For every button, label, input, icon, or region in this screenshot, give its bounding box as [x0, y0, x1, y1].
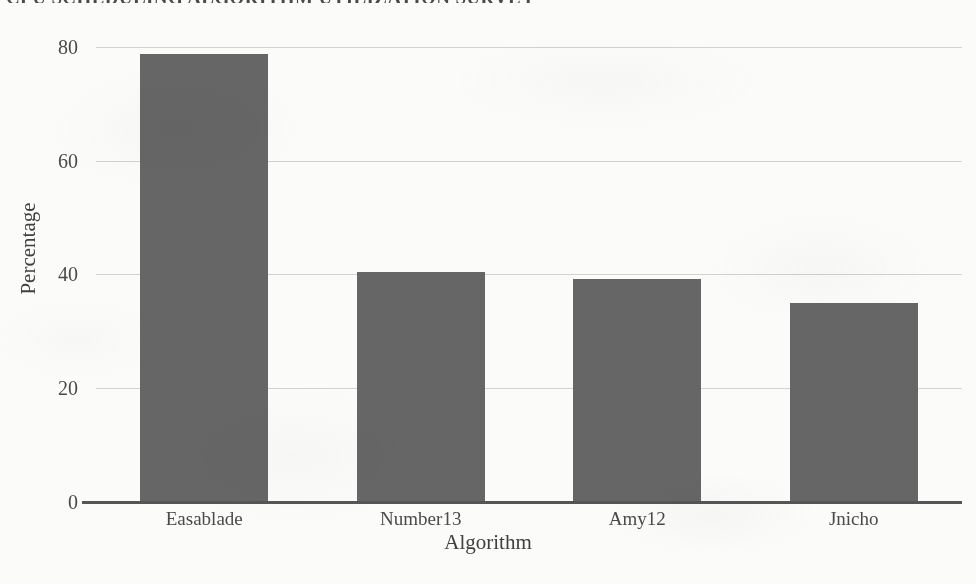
x-axis-line — [82, 501, 962, 504]
chart-title: CPU SCHEDULING ALGORITHM UTILIZATION SUR… — [0, 0, 976, 3]
y-axis-tick-label: 40 — [0, 263, 78, 286]
y-axis-tick-label: 60 — [0, 149, 78, 172]
plot-area — [96, 24, 962, 502]
bar — [357, 272, 485, 502]
bar — [790, 303, 918, 502]
y-axis-tick-label: 80 — [0, 35, 78, 58]
y-axis-tick-label: 20 — [0, 377, 78, 400]
bar — [140, 54, 268, 502]
gridline — [96, 47, 962, 48]
y-axis-tick-labels: 020406080 — [0, 24, 90, 502]
x-axis-tick-label: Jnicho — [829, 508, 879, 530]
x-axis-title: Algorithm — [0, 530, 976, 555]
x-axis-tick-label: Easablade — [166, 508, 243, 530]
bar-chart: CPU SCHEDULING ALGORITHM UTILIZATION SUR… — [0, 0, 976, 584]
x-axis-tick-label: Number13 — [380, 508, 461, 530]
x-axis-tick-label: Amy12 — [609, 508, 666, 530]
y-axis-tick-label: 0 — [0, 491, 78, 514]
bar — [573, 279, 701, 502]
